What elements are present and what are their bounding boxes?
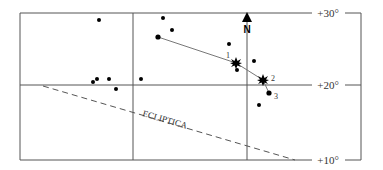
star-dot [170, 28, 174, 32]
north-label: N [243, 24, 250, 35]
star-dot [91, 80, 95, 84]
star-dot [139, 77, 143, 81]
position-3-icon [266, 90, 271, 95]
star-dot [235, 68, 239, 72]
dec-label-10: +10° [317, 154, 339, 166]
star-dot [161, 16, 165, 20]
star-chart: +30° +20° +10° N ECLIPTICA 1 2 3 [0, 0, 383, 170]
frame [20, 13, 361, 160]
position-2-label: 2 [271, 74, 275, 83]
position-1-label: 1 [226, 51, 230, 60]
star-dot [95, 77, 99, 81]
dec-label-30: +30° [317, 7, 339, 19]
star-dot-start [155, 34, 160, 39]
position-3-label: 3 [274, 92, 278, 101]
dec-label-20: +20° [317, 79, 339, 91]
star-dot [97, 18, 101, 22]
ecliptic-label: ECLIPTICA [141, 108, 188, 130]
star-dot [114, 87, 118, 91]
position-2-icon [257, 74, 269, 86]
star-dot [252, 59, 256, 63]
star-dot [107, 77, 111, 81]
star-dot [257, 103, 261, 107]
star-dot [227, 42, 231, 46]
position-1-icon [230, 57, 242, 69]
